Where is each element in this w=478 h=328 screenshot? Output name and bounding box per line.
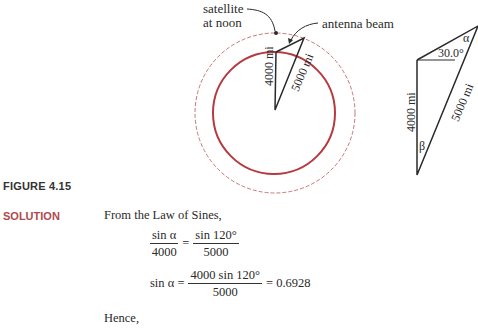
satellite-label-line2: at noon	[203, 16, 243, 30]
hence-text: Hence,	[104, 311, 139, 326]
equation-2: sin α = 4000 sin 120° 5000 = 0.6928	[150, 268, 311, 299]
satellite-leader	[247, 9, 275, 31]
left-side-4000-label: 4000 mi	[262, 46, 276, 86]
eq1-lhs-fraction: sin α 4000	[150, 228, 178, 259]
equation-1: sin α 4000 = sin 120° 5000	[150, 228, 239, 259]
antenna-beam-label: antenna beam	[322, 17, 394, 31]
satellite-label: satellite at noon	[203, 2, 243, 30]
eq1-lhs-denominator: 4000	[152, 244, 177, 259]
eq1-rhs-numerator: sin 120°	[193, 228, 238, 244]
angle-30-label: 30.0°	[438, 46, 464, 60]
eq2-result: = 0.6928	[266, 276, 311, 291]
alpha-label: α	[463, 31, 469, 45]
right-side-4000-label: 4000 mi	[404, 92, 418, 132]
satellite-label-line1: satellite	[203, 2, 243, 16]
eq1-lhs-numerator: sin α	[150, 228, 178, 244]
beta-label: β	[419, 139, 425, 153]
solution-intro: From the Law of Sines,	[104, 208, 222, 223]
eq1-rhs-fraction: sin 120° 5000	[193, 228, 238, 259]
eq1-equals: =	[182, 236, 189, 251]
figure-label: FIGURE 4.15	[3, 180, 71, 192]
eq2-lhs: sin α =	[150, 276, 184, 291]
eq2-denominator: 5000	[213, 284, 238, 299]
solution-heading: SOLUTION	[3, 210, 60, 222]
eq1-rhs-denominator: 5000	[204, 244, 229, 259]
eq2-fraction: 4000 sin 120° 5000	[188, 268, 262, 299]
satellite-dot	[274, 31, 278, 35]
eq2-numerator: 4000 sin 120°	[188, 268, 262, 284]
